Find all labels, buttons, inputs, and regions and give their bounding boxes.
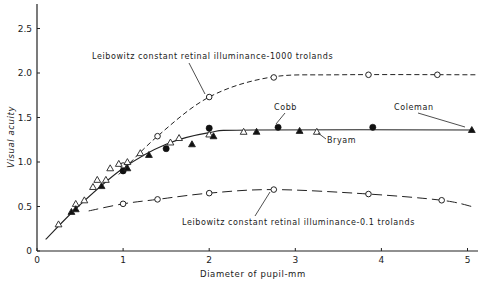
open-circle-marker [206,190,212,196]
y-tick-label: 0 [26,246,32,256]
open-triangle-marker [90,184,97,190]
open-circle-marker [439,197,445,203]
open-triangle-marker [94,176,101,182]
curve-1000-trolands [119,75,476,175]
filled-circle-marker [163,146,169,152]
open-circle-marker [366,72,372,78]
y-tick-label: 1.5 [18,113,32,123]
filled-circle-marker [275,124,281,130]
open-circle-marker [271,187,277,193]
leader-1000-trolands [189,63,205,94]
filled-triangle-marker [146,151,153,157]
x-tick-label: 3 [292,255,298,265]
y-tick-label: 2.5 [18,24,32,34]
open-triangle-marker [107,165,114,171]
leader-bryam [318,133,326,139]
fit-curves [46,75,477,240]
filled-triangle-marker [189,141,196,147]
open-triangle-marker [240,128,247,134]
annotation-0.1-trolands: Leibowitz constant retinal illuminance-0… [182,218,415,227]
x-tick-label: 2 [206,255,212,265]
open-circle-marker [435,72,441,78]
data-markers [55,72,475,227]
x-tick-label: 5 [465,255,471,265]
leader-0.1-trolands [255,192,270,216]
x-tick-label: 1 [120,255,126,265]
open-circle-marker [155,197,161,203]
leader-coleman [418,113,465,127]
curve-0.1-trolands [89,190,472,211]
x-tick-label: 0 [34,255,40,265]
y-tick-label: 0.5 [18,202,32,212]
filled-circle-marker [370,124,376,130]
annotation-1000-trolands: Leibowitz constant retinal illuminance-1… [92,52,333,61]
annotation-bryam: Bryam [327,136,356,145]
annotation-coleman: Coleman [394,103,434,112]
open-triangle-marker [313,128,320,134]
y-axis-label: Visual acuity [6,106,16,168]
open-circle-marker [366,191,372,197]
open-triangle-marker [124,159,131,165]
open-circle-marker [271,75,277,81]
visual-acuity-chart: 00.51.01.52.02.5012345 Leibowitz constan… [0,0,489,285]
filled-triangle-marker [253,128,260,134]
open-circle-marker [206,94,212,100]
leader-cobb [276,113,285,124]
y-tick-label: 1.0 [18,157,33,167]
y-tick-label: 2.0 [18,68,33,78]
open-triangle-marker [81,197,88,203]
open-triangle-marker [176,135,183,141]
x-axis-label: Diameter of pupil-mm [200,269,306,279]
open-circle-marker [155,133,161,139]
open-circle-marker [120,201,126,207]
annotation-cobb: Cobb [274,103,297,112]
x-tick-label: 4 [379,255,385,265]
